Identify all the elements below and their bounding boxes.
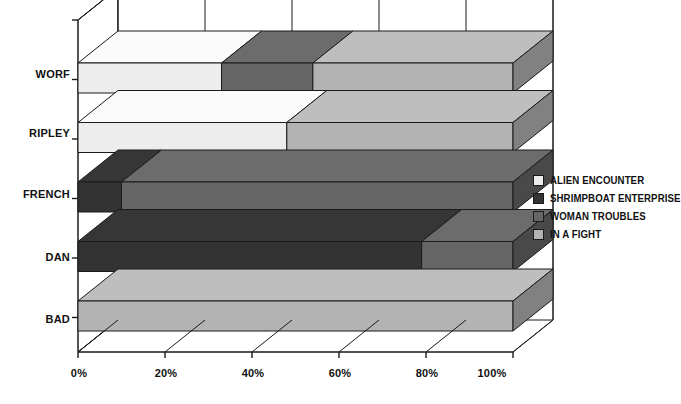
bar-worf-woman-troubles-front: [222, 63, 313, 93]
ytick-label-ripley: RIPLEY: [0, 127, 70, 139]
legend-swatch-in-a-fight: [533, 229, 544, 240]
xtick-label-100: 100%: [468, 367, 516, 379]
bar-worf-in-a-fight-front: [313, 63, 513, 93]
bar-dan-shrimpboat-enterprise-front: [78, 242, 422, 272]
legend-label-alien-encounter: ALIEN ENCOUNTER: [550, 174, 644, 186]
ytick-label-worf: WORF: [0, 68, 70, 80]
chart-legend: ALIEN ENCOUNTER SHRIMPBOAT ENTERPRISE WO…: [533, 172, 681, 244]
ytick-label-french: FRENCH: [0, 188, 70, 200]
bar-french-woman-troubles-front: [122, 182, 514, 212]
ytick-label-bad: BAD: [0, 313, 70, 325]
legend-swatch-woman-troubles: [533, 211, 544, 222]
bar-french-shrimpboat-enterprise-front: [78, 182, 122, 212]
legend-item-woman-troubles[interactable]: WOMAN TROUBLES: [533, 208, 681, 224]
legend-item-alien-encounter[interactable]: ALIEN ENCOUNTER: [533, 172, 681, 188]
bar-ripley-in-a-fight-front: [287, 123, 513, 153]
bar-dan-shrimpboat-enterprise-top: [78, 210, 462, 242]
bar-worf-in-a-fight-top: [313, 31, 553, 63]
bar-french-woman-troubles-top: [122, 150, 554, 182]
legend-swatch-alien-encounter: [533, 175, 544, 186]
legend-item-in-a-fight[interactable]: IN A FIGHT: [533, 226, 681, 242]
legend-label-shrimpboat-enterprise: SHRIMPBOAT ENTERPRISE: [550, 192, 681, 204]
legend-label-in-a-fight: IN A FIGHT: [550, 228, 601, 240]
ytick-label-dan: DAN: [0, 251, 70, 263]
xtick-label-80: 80%: [403, 367, 451, 379]
bar-ripley-alien-encounter-front: [78, 123, 287, 153]
bar-bad-in-a-fight-front: [78, 301, 513, 331]
bar-ripley-alien-encounter-top: [78, 91, 327, 123]
legend-item-shrimpboat-enterprise[interactable]: SHRIMPBOAT ENTERPRISE: [533, 190, 681, 206]
xtick-label-60: 60%: [316, 367, 364, 379]
bar-bad-in-a-fight-top: [78, 269, 553, 301]
bar-dan-woman-troubles-front: [422, 242, 513, 272]
xtick-label-40: 40%: [229, 367, 277, 379]
bar-ripley-in-a-fight-top: [287, 91, 553, 123]
xtick-label-0: 0%: [55, 367, 103, 379]
xtick-label-20: 20%: [142, 367, 190, 379]
legend-swatch-shrimpboat-enterprise: [533, 193, 544, 204]
chart-container: WORF RIPLEY FRENCH DAN BAD 0% 20% 40% 60…: [0, 0, 681, 404]
bar-worf-alien-encounter-front: [78, 63, 222, 93]
legend-label-woman-troubles: WOMAN TROUBLES: [550, 210, 646, 222]
